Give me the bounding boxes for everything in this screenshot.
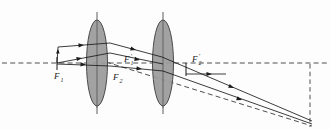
label-F1-prime-base: F — [123, 54, 130, 64]
label-F1-prime: F ′ 1 — [123, 52, 134, 66]
label-F1-prime-sub: 1 — [131, 60, 134, 66]
label-F2-prime: F ′ 2 — [191, 52, 202, 66]
ray-diagram-canvas: F 1 F ′ 1 F 2 F ′ 2 — [0, 0, 330, 129]
label-F2-prime-sub: 2 — [199, 60, 202, 66]
label-F1-base: F — [53, 71, 60, 81]
label-F2-sub: 2 — [120, 78, 123, 84]
label-F2-base: F — [112, 72, 119, 82]
label-F1-sub: 1 — [61, 77, 64, 83]
label-F2-prime-base: F — [191, 54, 198, 64]
optics-figure: F 1 F ′ 1 F 2 F ′ 2 — [0, 0, 330, 129]
